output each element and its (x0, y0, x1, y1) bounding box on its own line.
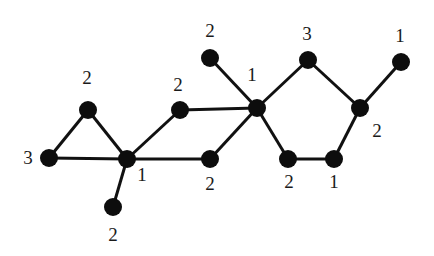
node-label: 2 (372, 120, 382, 141)
graph-node-i (299, 51, 317, 69)
graph-edge-a-b (49, 110, 88, 158)
graph-edges (49, 58, 401, 207)
node-label: 1 (247, 64, 257, 85)
graph-node-l (279, 150, 297, 168)
graph-node-m (325, 150, 343, 168)
node-label: 1 (329, 171, 339, 192)
graph-node-a (79, 101, 97, 119)
graph-diagram: 2312221232121 (0, 0, 434, 256)
graph-edge-a-c (88, 110, 127, 159)
graph-edge-c-e (127, 110, 180, 159)
graph-node-j (351, 99, 369, 117)
graph-edge-e-g (180, 108, 257, 110)
graph-edge-b-c (49, 158, 127, 159)
graph-node-d (104, 198, 122, 216)
graph-edge-f-g (210, 108, 257, 159)
node-label: 2 (82, 67, 92, 88)
graph-node-g (248, 99, 266, 117)
graph-node-e (171, 101, 189, 119)
node-label: 2 (205, 20, 215, 41)
node-label: 2 (173, 74, 183, 95)
node-label: 1 (137, 164, 147, 185)
graph-edge-j-k (360, 62, 401, 108)
graph-node-f (201, 150, 219, 168)
graph-node-h (201, 49, 219, 67)
node-label: 3 (23, 147, 33, 168)
node-label: 3 (302, 23, 312, 44)
graph-node-k (392, 53, 410, 71)
node-label: 1 (395, 25, 405, 46)
graph-node-c (118, 150, 136, 168)
graph-node-b (40, 149, 58, 167)
graph-edge-g-i (257, 60, 308, 108)
node-label: 2 (205, 173, 215, 194)
node-label: 2 (108, 224, 118, 245)
node-label: 2 (284, 171, 294, 192)
graph-edge-i-j (308, 60, 360, 108)
